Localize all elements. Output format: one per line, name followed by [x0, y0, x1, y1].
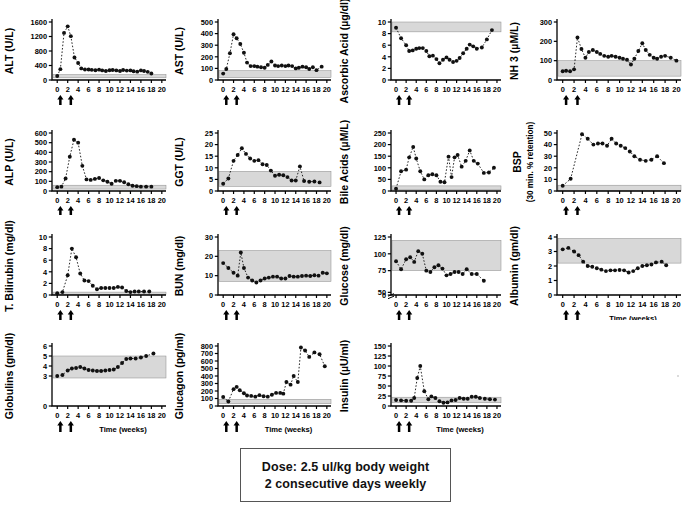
data-point [76, 141, 80, 145]
data-point [577, 253, 581, 257]
x-tick-label: 4 [242, 411, 247, 420]
data-point [55, 291, 59, 295]
reference-band [558, 238, 681, 263]
data-point [325, 271, 329, 275]
x-tick-label: 18 [312, 300, 320, 309]
data-point [580, 47, 584, 51]
data-point [236, 274, 240, 278]
reference-band [558, 185, 681, 191]
data-point [259, 65, 263, 69]
data-point [623, 146, 627, 150]
x-tick-label: 2 [66, 411, 70, 420]
y-tick-label: 25 [378, 392, 386, 401]
series-line [57, 26, 151, 76]
x-tick-label: 12 [627, 300, 635, 309]
chart-panel-insulin: 025507510012515002468101214161820Insulin… [335, 320, 505, 440]
x-tick-label: 2 [572, 85, 576, 94]
data-point [279, 277, 283, 281]
x-tick-label: 12 [281, 85, 289, 94]
data-point [112, 286, 116, 290]
data-point [475, 47, 479, 51]
data-point [89, 178, 93, 182]
data-point [238, 388, 242, 392]
data-point [232, 387, 236, 391]
data-point [248, 157, 252, 161]
x-tick-label: 6 [595, 300, 599, 309]
data-point [312, 273, 316, 277]
data-point [652, 56, 656, 60]
dose-arrow-1 [57, 310, 63, 320]
data-point [108, 286, 112, 290]
x-tick-label: 14 [292, 411, 301, 420]
y-tick-label: 2 [382, 64, 386, 73]
data-point [595, 50, 599, 54]
data-point [664, 263, 668, 267]
x-axis-label: Time (weeks) [609, 314, 657, 320]
x-tick-label: 20 [158, 300, 166, 309]
x-tick-label: 18 [147, 411, 155, 420]
data-point [394, 398, 398, 402]
x-tick-label: 18 [661, 85, 669, 94]
data-point [93, 68, 97, 72]
data-point [95, 287, 99, 291]
data-point [95, 369, 99, 373]
y-axis-label: Albumin (gm/dl) [508, 226, 520, 306]
dose-arrow-1 [57, 206, 63, 215]
data-point [312, 180, 316, 184]
data-point [488, 397, 492, 401]
data-point [649, 158, 653, 162]
dose-arrow-1 [563, 206, 569, 215]
data-point [288, 274, 292, 278]
dose-arrow-1 [223, 310, 229, 320]
data-point [232, 32, 236, 36]
x-tick-label: 12 [452, 300, 460, 309]
data-point [460, 165, 464, 169]
data-point [307, 67, 311, 71]
x-tick-label: 10 [105, 196, 113, 205]
y-tick-label: 20 [205, 252, 213, 261]
data-point [649, 263, 653, 267]
x-tick-label: 12 [627, 196, 635, 205]
data-point [441, 58, 445, 62]
data-point [286, 175, 290, 179]
dose-arrow-1 [396, 421, 402, 432]
data-point [292, 275, 296, 279]
x-tick-label: 6 [252, 411, 256, 420]
x-tick-label: 4 [76, 85, 81, 94]
data-point [412, 260, 416, 264]
x-tick-label: 8 [97, 196, 101, 205]
x-tick-label: 18 [147, 300, 155, 309]
y-tick-label: 3 [43, 372, 47, 381]
data-point [144, 354, 148, 358]
data-point [235, 36, 239, 40]
data-point [69, 34, 73, 38]
data-point [450, 175, 454, 179]
data-point [221, 261, 225, 265]
data-point [239, 251, 243, 255]
y-tick-label: 25 [205, 129, 213, 138]
data-point [417, 46, 421, 50]
x-tick-label: 10 [442, 85, 450, 94]
data-point [105, 180, 109, 184]
x-tick-label: 14 [463, 411, 472, 420]
x-tick-label: 18 [661, 196, 669, 205]
data-point [576, 36, 580, 40]
y-tick-label: 1200 [31, 32, 47, 41]
x-tick-label: 18 [147, 196, 155, 205]
chart-panel-bsp: 0102030405002468101214161820BSP(30 min. … [505, 105, 688, 215]
data-point [586, 137, 590, 141]
x-tick-label: 6 [87, 85, 91, 94]
x-tick-label: 12 [627, 85, 635, 94]
dose-arrow-1 [57, 95, 63, 105]
data-point [605, 144, 609, 148]
x-tick-label: 8 [97, 300, 101, 309]
data-point [674, 59, 678, 63]
x-tick-label: 10 [442, 196, 450, 205]
data-point [149, 185, 153, 189]
data-point [662, 161, 666, 165]
data-point [240, 146, 244, 150]
data-point [70, 247, 74, 251]
data-point [323, 364, 327, 368]
data-point [482, 171, 486, 175]
data-point [90, 68, 94, 72]
